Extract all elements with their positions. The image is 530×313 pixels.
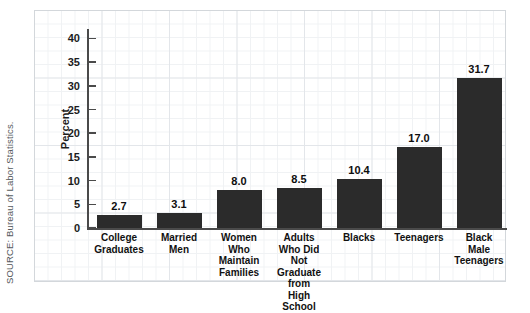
bar-group[interactable]: 17.0Teenagers [397, 29, 442, 228]
bar-value-label: 2.7 [111, 200, 126, 212]
x-axis-category-label: Married Men [161, 232, 197, 255]
bar-group[interactable]: 31.7Black Male Teenagers [457, 29, 502, 228]
source-note: SOURCE: Bureau of Labor Statistics. [0, 0, 18, 292]
y-axis-tick: 0 [88, 227, 96, 229]
bar[interactable] [337, 179, 382, 228]
y-axis-tick-label: 5 [74, 198, 80, 210]
y-axis-tick: 30 [88, 85, 96, 87]
x-axis-category-label: Adults Who Did Not Graduate from High Sc… [277, 232, 321, 313]
y-axis-tick: 5 [88, 204, 96, 206]
y-axis-tick: 40 [88, 38, 96, 40]
x-axis-category-label: Black Male Teenagers [454, 232, 503, 267]
bar-value-label: 3.1 [171, 198, 186, 210]
plot-area: Percent 4035302520151050 2.7College Grad… [87, 29, 507, 228]
bar-value-label: 10.4 [348, 164, 369, 176]
bar-group[interactable]: 2.7College Graduates [97, 29, 142, 228]
bar-group[interactable]: 10.4Blacks [337, 29, 382, 228]
y-axis-tick-label: 0 [74, 222, 80, 234]
y-axis-tick: 15 [88, 156, 96, 158]
bar[interactable] [97, 215, 142, 228]
y-axis-tick-label: 35 [68, 56, 80, 68]
bar[interactable] [457, 78, 502, 228]
y-axis-tick: 10 [88, 180, 96, 182]
bar-group[interactable]: 8.5Adults Who Did Not Graduate from High… [277, 29, 322, 228]
x-axis-category-label: Blacks [343, 232, 375, 244]
bar-value-label: 8.5 [291, 173, 306, 185]
y-axis-tick-label: 30 [68, 80, 80, 92]
x-axis-category-label: Teenagers [394, 232, 443, 244]
y-axis-tick-label: 15 [68, 151, 80, 163]
x-axis-category-label: College Graduates [94, 232, 143, 255]
y-axis-line [87, 29, 89, 228]
bar[interactable] [217, 190, 262, 228]
bar[interactable] [157, 213, 202, 228]
y-axis-tick: 35 [88, 61, 96, 63]
bar[interactable] [277, 188, 322, 228]
y-axis-tick: 20 [88, 132, 96, 134]
bar-value-label: 31.7 [468, 63, 489, 75]
bar-group[interactable]: 3.1Married Men [157, 29, 202, 228]
y-axis-tick-label: 10 [68, 175, 80, 187]
y-axis-tick-label: 20 [68, 127, 80, 139]
y-axis-tick-label: 40 [68, 32, 80, 44]
bar-value-label: 17.0 [408, 132, 429, 144]
x-axis-category-label: Women Who Maintain Families [219, 232, 260, 278]
chart-frame: Percent 4035302520151050 2.7College Grad… [34, 10, 506, 282]
y-axis-tick-label: 25 [68, 104, 80, 116]
y-axis-tick: 25 [88, 109, 96, 111]
bar[interactable] [397, 147, 442, 228]
bar-value-label: 8.0 [231, 175, 246, 187]
x-axis-line [87, 228, 507, 230]
bar-group[interactable]: 8.0Women Who Maintain Families [217, 29, 262, 228]
